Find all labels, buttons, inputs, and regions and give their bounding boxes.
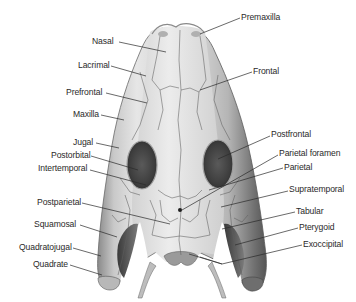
label-parietal-foramen: Parietal foramen (279, 148, 340, 158)
label-intertemporal: Intertemporal (38, 163, 87, 173)
right-naris (191, 31, 201, 37)
label-premaxilla: Premaxilla (241, 12, 280, 22)
label-prefrontal: Prefrontal (66, 87, 102, 97)
label-jugal: Jugal (73, 137, 93, 147)
label-nasal: Nasal (92, 36, 113, 46)
right-quadrate (242, 277, 263, 291)
left-naris (158, 31, 168, 37)
leader-quadratojugal (73, 248, 101, 256)
label-frontal: Frontal (253, 66, 279, 76)
label-quadrate: Quadrate (33, 259, 68, 269)
left-orbit (127, 141, 157, 189)
skull-diagram: Nasal Lacrimal Prefrontal Maxilla Jugal … (0, 0, 356, 302)
label-maxilla: Maxilla (73, 109, 99, 119)
label-exoccipital: Exoccipital (303, 239, 343, 249)
leader-quadrate (70, 265, 102, 275)
label-pterygoid: Pterygoid (299, 222, 334, 232)
posterior-embayment (152, 262, 208, 290)
label-postorbital: Postorbital (51, 150, 91, 160)
label-lacrimal: Lacrimal (78, 60, 110, 70)
label-quadratojugal: Quadratojugal (19, 242, 72, 252)
label-postfrontal: Postfrontal (271, 129, 311, 139)
label-supratemporal: Supratemporal (289, 184, 344, 194)
label-parietal: Parietal (284, 162, 312, 172)
left-quadrate (98, 276, 120, 290)
leader-premaxilla (200, 18, 240, 34)
label-squamosal: Squamosal (34, 219, 76, 229)
parietal-foramen-hole (178, 208, 182, 212)
right-orbit (203, 140, 233, 188)
label-tabular: Tabular (296, 206, 324, 216)
label-postparietal: Postparietal (37, 197, 81, 207)
